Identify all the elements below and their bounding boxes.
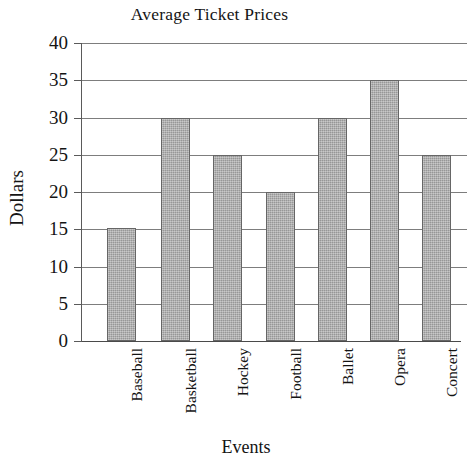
x-axis-category-label: Football bbox=[288, 348, 304, 400]
x-axis-category-label: Ballet bbox=[340, 348, 356, 385]
x-axis-category-label: Baseball bbox=[129, 348, 145, 401]
x-axis-category-labels: BaseballBasketballHockeyFootballBalletOp… bbox=[0, 0, 467, 466]
x-axis-category-label: Opera bbox=[392, 348, 408, 386]
x-axis-title: Events bbox=[81, 437, 411, 457]
y-axis-title: Dollars bbox=[2, 128, 32, 268]
bar-chart: Average Ticket Prices 4035302520151050 B… bbox=[0, 0, 467, 466]
x-axis-category-label: Concert bbox=[444, 348, 460, 397]
x-axis-category-label: Hockey bbox=[235, 348, 251, 396]
x-axis-category-label: Basketball bbox=[183, 348, 199, 413]
y-axis-title-text: Dollars bbox=[7, 170, 27, 226]
